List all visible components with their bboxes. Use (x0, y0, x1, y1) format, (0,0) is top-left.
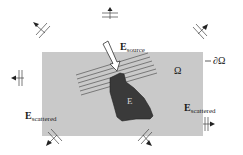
wave-marker-top-icon (102, 7, 118, 19)
source-label: Esource (120, 37, 145, 53)
domain-omega-label: Ω (174, 66, 181, 76)
object-label: E (127, 97, 133, 106)
boundary-label: ∂Ω (213, 56, 225, 66)
wave-marker-top-left-icon (33, 22, 50, 38)
scattered-left-label: Escattered (25, 106, 57, 122)
wave-marker-left-icon (11, 70, 24, 86)
scattered-right-label: Escattered (184, 98, 216, 114)
scattering-diagram (0, 0, 243, 155)
wave-marker-right-icon (203, 117, 215, 131)
wave-marker-top-right-icon (193, 24, 208, 39)
